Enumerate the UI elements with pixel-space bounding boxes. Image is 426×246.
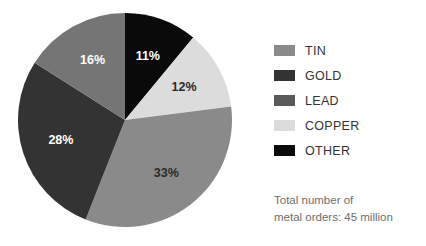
legend-label-gold: GOLD	[305, 69, 342, 83]
legend-swatch-tin	[274, 45, 295, 56]
chart-legend: TINGOLDLEADCOPPEROTHER	[274, 38, 424, 163]
total-orders-line-1: Total number of	[274, 192, 424, 209]
legend-item-lead[interactable]: LEAD	[274, 88, 424, 113]
legend-item-gold[interactable]: GOLD	[274, 63, 424, 88]
total-orders-line-2: metal orders: 45 million	[274, 209, 424, 226]
pie-chart-svg: 11%12%33%28%16%	[0, 0, 250, 246]
legend-label-lead: LEAD	[305, 94, 339, 108]
pie-chart-figure: 11%12%33%28%16%	[0, 0, 250, 246]
pie-slice-label-lead: 16%	[80, 53, 105, 67]
legend-swatch-copper	[274, 120, 295, 131]
legend-item-tin[interactable]: TIN	[274, 38, 424, 63]
legend-item-copper[interactable]: COPPER	[274, 113, 424, 138]
legend-label-tin: TIN	[305, 44, 326, 58]
legend-label-copper: COPPER	[305, 119, 360, 133]
total-orders-note: Total number of metal orders: 45 million	[274, 192, 424, 225]
pie-slice-label-copper: 12%	[172, 80, 197, 94]
legend-item-other[interactable]: OTHER	[274, 138, 424, 163]
pie-slice-label-tin: 33%	[154, 166, 179, 180]
pie-slice-label-other: 11%	[136, 49, 160, 63]
pie-slice-group	[18, 13, 232, 227]
legend-swatch-gold	[274, 70, 295, 81]
legend-swatch-other	[274, 145, 295, 156]
legend-label-other: OTHER	[305, 144, 350, 158]
legend-swatch-lead	[274, 95, 295, 106]
pie-slice-label-gold: 28%	[48, 133, 73, 147]
pie-chart-page: 11%12%33%28%16% TINGOLDLEADCOPPEROTHER T…	[0, 0, 426, 246]
